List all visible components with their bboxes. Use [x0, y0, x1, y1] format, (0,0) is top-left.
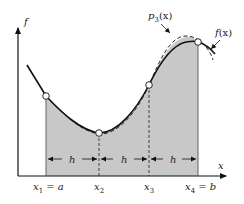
p3-label: p3(x) — [148, 10, 172, 24]
node-point-x2 — [96, 130, 103, 137]
node-point-x4 — [195, 39, 202, 46]
node-label-x1: x1 = a — [33, 181, 64, 195]
f-label: f(x) — [214, 27, 232, 38]
node-label-x3: x3 — [144, 181, 154, 195]
node-label-x4: x4 = b — [185, 181, 216, 195]
spacing-label-h1: h — [69, 154, 75, 165]
node-label-x2: x2 — [94, 181, 104, 195]
node-point-x1 — [43, 93, 50, 100]
svg-text:f(x): f(x) — [214, 27, 232, 38]
integration-diagram: f x p3(x) f(x) — [0, 0, 244, 204]
spacing-label-h3: h — [170, 154, 176, 165]
spacing-label-h2: h — [121, 154, 127, 165]
node-point-x3 — [146, 82, 153, 89]
svg-text:p3(x): p3(x) — [148, 10, 172, 24]
x-axis-label: x — [218, 160, 224, 171]
f-pointer-arrow — [211, 40, 220, 49]
p3-pointer-arrow — [161, 24, 170, 33]
y-axis-label: f — [23, 16, 30, 27]
